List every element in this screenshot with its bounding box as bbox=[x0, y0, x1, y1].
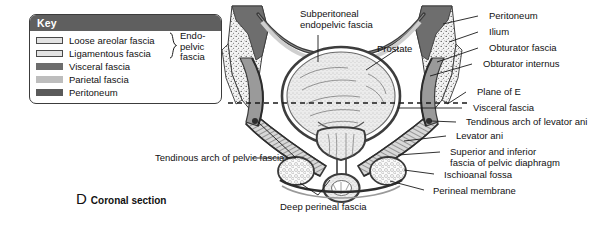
key-group-label-line3: fascia bbox=[180, 52, 205, 63]
key-item-label: Loose areolar fascia bbox=[69, 35, 155, 46]
ligamentous-fascia-swatch-icon bbox=[36, 50, 63, 57]
label-line2: endopelvic fascia bbox=[300, 19, 373, 30]
label-peritoneum: Peritoneum bbox=[489, 10, 538, 21]
label-tendinous-arch-of-pelvic-fascia: Tendinous arch of pelvic fascia bbox=[155, 152, 284, 163]
label-plane-of-e: Plane of E bbox=[477, 86, 521, 97]
label-line1: Superior and inferior bbox=[450, 146, 560, 157]
label-deep-perineal-fascia: Deep perineal fascia bbox=[280, 201, 367, 212]
key-items-list: Loose areolar fascia Ligamentous fascia … bbox=[30, 31, 221, 103]
label-line2: fascia of pelvic diaphragm bbox=[450, 157, 560, 168]
label-prostate: Prostate bbox=[377, 43, 412, 54]
key-item-peritoneum: Peritoneum bbox=[36, 86, 216, 99]
label-superior-inferior-fascia-pelvic-diaphragm: Superior and inferior fascia of pelvic d… bbox=[450, 146, 560, 168]
urethra bbox=[324, 158, 360, 202]
label-levator-ani: Levator ani bbox=[456, 130, 503, 141]
coronal-section-figure: Key Loose areolar fascia Ligamentous fas… bbox=[0, 0, 614, 226]
key-title: Key bbox=[30, 15, 221, 31]
key-group-brace-icon bbox=[169, 32, 178, 59]
key-item-parietal-fascia: Parietal fascia bbox=[36, 73, 216, 86]
label-obturator-fascia: Obturator fascia bbox=[489, 42, 557, 53]
label-perineal-membrane: Perineal membrane bbox=[433, 185, 516, 196]
parietal-fascia-swatch-icon bbox=[36, 76, 63, 83]
caption-letter: D bbox=[76, 191, 87, 206]
label-ischioanal-fossa: Ischioanal fossa bbox=[444, 169, 512, 180]
key-group-label: Endo- pelvic fascia bbox=[180, 31, 205, 63]
label-obturator-internus: Obturator internus bbox=[483, 58, 560, 69]
key-item-label: Parietal fascia bbox=[69, 74, 129, 85]
figure-caption: D Coronal section bbox=[76, 191, 166, 207]
pelvis-drawing bbox=[222, 6, 478, 202]
label-line1: Subperitoneal bbox=[300, 8, 373, 19]
key-item-label: Peritoneum bbox=[69, 87, 118, 98]
visceral-fascia-swatch-icon bbox=[36, 63, 63, 70]
label-visceral-fascia: Visceral fascia bbox=[473, 102, 534, 113]
prostate bbox=[317, 127, 366, 160]
key-item-label: Ligamentous fascia bbox=[69, 48, 151, 59]
label-subperitoneal-endopelvic-fascia: Subperitoneal endopelvic fascia bbox=[300, 8, 373, 30]
caption-text: Coronal section bbox=[91, 195, 167, 207]
key-group-label-line1: Endo- bbox=[180, 31, 205, 42]
key-legend: Key Loose areolar fascia Ligamentous fas… bbox=[29, 14, 222, 104]
label-tendinous-arch-of-levator-ani: Tendinous arch of levator ani bbox=[466, 116, 587, 127]
peritoneum-swatch-icon bbox=[36, 89, 63, 96]
loose-areolar-fascia-swatch-icon bbox=[36, 37, 63, 44]
key-item-label: Visceral fascia bbox=[69, 61, 130, 72]
label-ilium: Ilium bbox=[489, 26, 509, 37]
